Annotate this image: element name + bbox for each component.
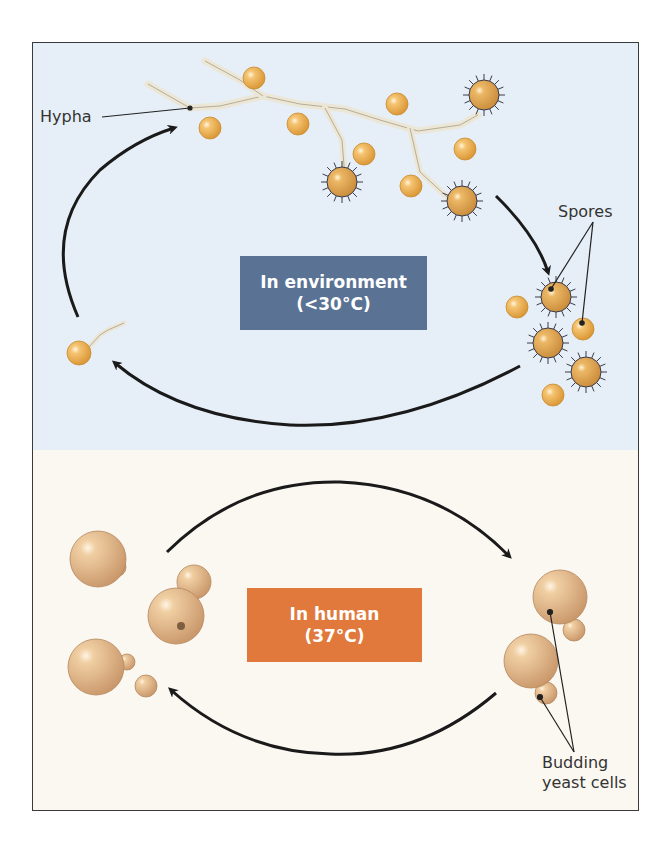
arrow-to-yeast-icon: [171, 690, 496, 754]
arrow-to-budding-icon: [167, 482, 509, 556]
environment-title: In environment: [240, 271, 427, 293]
human-condition: (37°C): [247, 625, 422, 647]
budding-yeast-label-line-1: Budding: [542, 753, 627, 773]
environment-label-box: In environment (<30°C): [240, 256, 427, 330]
environment-condition: (<30°C): [240, 293, 427, 315]
human-label-box: In human (37°C): [247, 588, 422, 662]
life-cycle-diagram: Hypha Spores Budding yeast cells In envi…: [0, 0, 667, 843]
diagram-artwork: [0, 0, 667, 843]
released-spiny-spores: [527, 276, 607, 393]
arrow-to-spores-icon: [496, 196, 548, 272]
hypha-icon: [148, 61, 478, 210]
budding-yeast-label: Budding yeast cells: [542, 753, 627, 793]
human-title: In human: [247, 603, 422, 625]
arrow-to-germination-icon: [115, 363, 520, 425]
spores-label: Spores: [558, 202, 613, 222]
hypha-label: Hypha: [40, 107, 92, 127]
budding-yeast-label-line-2: yeast cells: [542, 773, 627, 793]
arrow-to-hypha-icon: [63, 128, 174, 317]
germinating-spore-icon: [67, 323, 124, 365]
